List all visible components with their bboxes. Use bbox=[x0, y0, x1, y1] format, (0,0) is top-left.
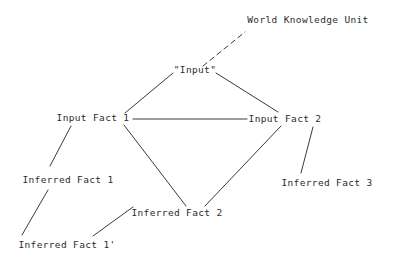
node-inferred-fact-3: Inferred Fact 3 bbox=[281, 178, 372, 188]
inference-diagram: World Knowledge Unit"Input"Input Fact 1I… bbox=[0, 0, 394, 262]
edge-input-fact-2-to-inferred-fact-3 bbox=[301, 127, 313, 173]
node-input: "Input" bbox=[174, 65, 217, 75]
node-world-knowledge-unit: World Knowledge Unit bbox=[247, 15, 368, 25]
node-input-fact-2: Input Fact 2 bbox=[249, 114, 322, 124]
edge-input-fact-1-to-inferred-fact-2 bbox=[124, 125, 186, 206]
node-inferred-fact-2: Inferred Fact 2 bbox=[131, 208, 222, 218]
edge-input-fact-2-to-inferred-fact-2 bbox=[205, 126, 281, 206]
node-inferred-fact-1: Inferred Fact 1 bbox=[22, 175, 113, 185]
edge-input-fact-1-to-inferred-fact-1 bbox=[50, 126, 71, 166]
edge-layer bbox=[0, 0, 394, 262]
edge-input-to-input-fact-2 bbox=[216, 73, 278, 112]
edge-inferred-fact-1-to-inferred-fact-1-prime bbox=[22, 190, 48, 235]
edge-input-to-input-fact-1 bbox=[125, 73, 173, 113]
node-input-fact-1: Input Fact 1 bbox=[57, 113, 130, 123]
edge-inferred-fact-1-prime-to-inferred-fact-2 bbox=[93, 207, 133, 236]
edge-input-to-world-knowledge-unit bbox=[203, 32, 245, 66]
node-inferred-fact-1-prime: Inferred Fact 1' bbox=[18, 240, 115, 250]
